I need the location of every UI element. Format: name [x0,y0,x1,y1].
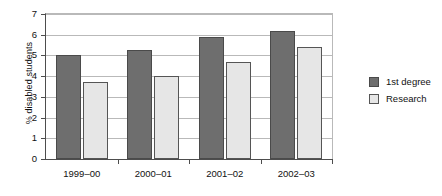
x-axis-tick [189,159,190,164]
bar-group [46,14,118,159]
bar-series-container [46,14,332,159]
legend: 1st degreeResearch [369,73,431,107]
x-axis-tick-label: 2002–03 [278,169,315,179]
y-axis-tick-label: 5 [32,51,37,61]
bar-group [118,14,190,159]
y-axis-tick-label: 1 [32,134,37,144]
legend-item[interactable]: 1st degree [369,73,431,90]
bar-group [261,14,333,159]
y-axis-tick [41,159,46,160]
y-axis-tick-label: 3 [32,92,37,102]
legend-swatch-icon [369,94,379,104]
bar-group [189,14,261,159]
plot-area: 01234567 1999–002000–012001–022002–03 [45,13,333,160]
bar-chart-figure: % disabled students 01234567 1999–002000… [0,0,442,196]
bar [297,47,322,159]
bar [270,31,295,159]
legend-swatch-icon [369,77,379,87]
bar [154,76,179,159]
bar [56,55,81,159]
bar [83,82,108,159]
legend-label: 1st degree [386,77,431,87]
x-axis-tick [118,159,119,164]
y-axis-tick-label: 2 [32,113,37,123]
x-axis-tick [261,159,262,164]
x-axis-tick [332,159,333,164]
bar [226,62,251,159]
y-axis-tick-label: 4 [32,71,37,81]
y-axis-tick-label: 7 [32,9,37,19]
legend-label: Research [386,94,427,104]
legend-item[interactable]: Research [369,90,431,107]
x-axis-tick-label: 2001–02 [206,169,243,179]
bar [199,37,224,159]
x-axis-tick-label: 2000–01 [135,169,172,179]
bar [127,50,152,159]
x-axis-tick-label: 1999–00 [63,169,100,179]
y-axis-tick-label: 0 [32,154,37,164]
y-axis-tick-label: 6 [32,30,37,40]
